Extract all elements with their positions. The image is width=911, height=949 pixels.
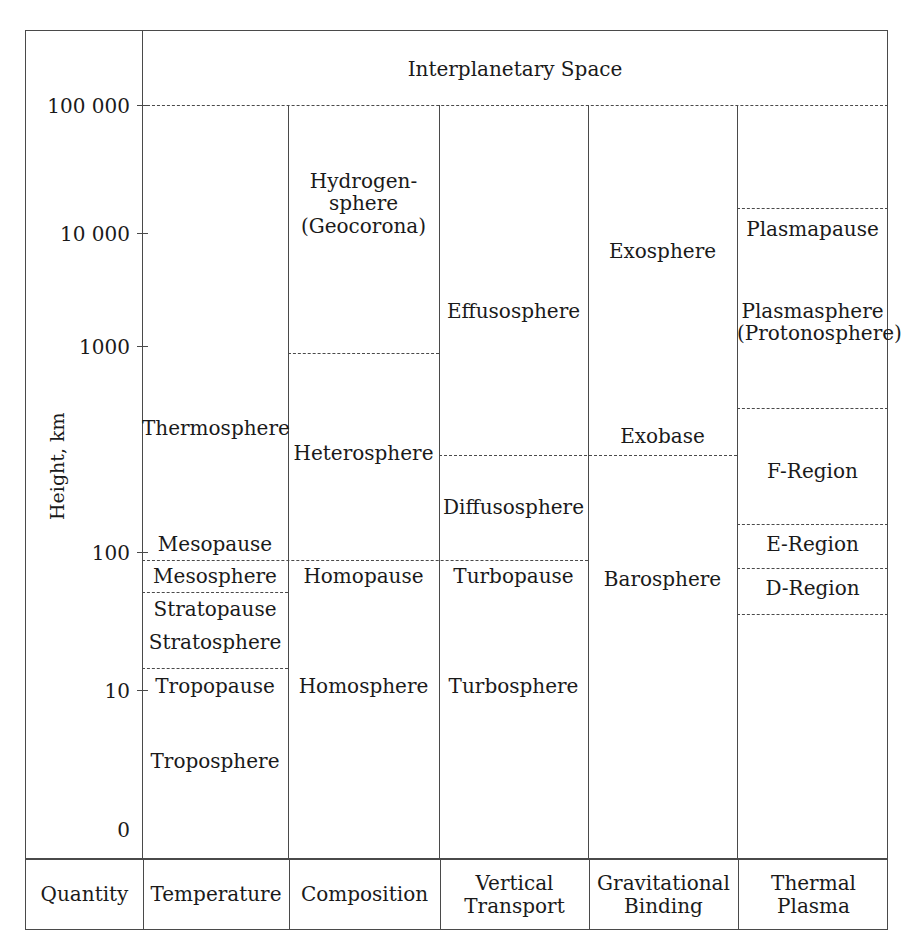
axis-tick-label-10: 10 — [20, 681, 130, 701]
legend-divider-3 — [440, 860, 441, 929]
region-homopause: Homopause — [288, 565, 439, 587]
region-mesopause: Mesopause — [142, 533, 288, 555]
interplanetary-space-label: Interplanetary Space — [142, 57, 888, 81]
atmosphere-layers-figure: Interplanetary Space Height, km 100 000 … — [0, 0, 911, 949]
region-troposphere: Troposphere — [142, 750, 288, 772]
region-e-region: E-Region — [737, 533, 888, 555]
axis-tick-label-10000: 10 000 — [20, 224, 130, 244]
boundary-plasmasphere-base — [737, 408, 888, 409]
region-mesosphere: Mesosphere — [142, 565, 288, 587]
boundary-mesopause-base — [142, 560, 588, 561]
legend-divider-1 — [143, 860, 144, 929]
axis-tick-label-1000: 1000 — [20, 337, 130, 357]
boundary-e-region-base — [737, 568, 888, 569]
axis-tick-label-0: 0 — [20, 820, 130, 840]
boundary-f-region-base — [737, 524, 888, 525]
region-plasmasphere: Plasmasphere (Protonosphere) — [737, 300, 888, 345]
boundary-mesosphere-base — [142, 592, 288, 593]
height-axis-title: Height, km — [46, 412, 68, 520]
boundary-stratosphere-base — [142, 668, 288, 669]
diagram-panel — [25, 30, 888, 859]
region-turbopause: Turbopause — [439, 565, 588, 587]
region-stratopause: Stratopause — [142, 598, 288, 620]
boundary-hydrogensphere-base — [288, 353, 439, 354]
boundary-d-region-base — [737, 614, 888, 615]
region-heterosphere: Heterosphere — [288, 442, 439, 464]
column-header-composition: Composition — [289, 860, 440, 929]
legend-divider-2 — [289, 860, 290, 929]
axis-tick-1000 — [137, 346, 148, 347]
region-hydrogensphere: Hydrogen- sphere (Geocorona) — [288, 170, 439, 237]
column-header-quantity: Quantity — [26, 860, 143, 929]
region-turbosphere: Turbosphere — [439, 675, 588, 697]
region-stratosphere: Stratosphere — [142, 631, 288, 653]
region-tropopause: Tropopause — [142, 675, 288, 697]
column-header-temperature: Temperature — [143, 860, 289, 929]
column-divider-gravitational-binding — [588, 105, 589, 859]
region-plasmapause: Plasmapause — [737, 218, 888, 240]
region-d-region: D-Region — [737, 577, 888, 599]
region-f-region: F-Region — [737, 460, 888, 482]
column-divider-vertical-transport — [439, 105, 440, 859]
boundary-effusosphere-base-exobase — [439, 455, 737, 456]
column-header-thermal-plasma: Thermal Plasma — [738, 860, 889, 929]
column-header-vertical-transport: Vertical Transport — [440, 860, 589, 929]
axis-tick-label-100000: 100 000 — [20, 96, 130, 116]
region-diffusosphere: Diffusosphere — [439, 496, 588, 518]
region-effusosphere: Effusosphere — [439, 300, 588, 322]
axis-tick-10000 — [137, 233, 148, 234]
region-exobase: Exobase — [588, 425, 737, 447]
legend-divider-5 — [738, 860, 739, 929]
boundary-plasmapause-top — [737, 208, 888, 209]
legend-divider-4 — [589, 860, 590, 929]
region-exosphere: Exosphere — [588, 240, 737, 262]
region-thermosphere: Thermosphere — [142, 417, 288, 439]
height-axis-line — [142, 30, 143, 859]
region-barosphere: Barosphere — [588, 568, 737, 590]
axis-tick-label-100: 100 — [20, 543, 130, 563]
region-homosphere: Homosphere — [288, 675, 439, 697]
column-header-gravitational-binding: Gravitational Binding — [589, 860, 738, 929]
column-header-row: Quantity Temperature Composition Vertica… — [25, 859, 888, 930]
boundary-100000km — [142, 105, 888, 106]
